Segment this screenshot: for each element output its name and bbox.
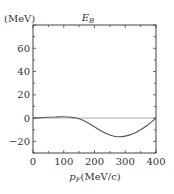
x-tick-label: 400 (146, 156, 165, 167)
y-tick-label: 20 (17, 89, 30, 100)
x-tick-label: 0 (30, 156, 36, 167)
x-tick-label: 300 (116, 156, 135, 167)
y-tick-label: 60 (17, 43, 30, 54)
y-tick-label: 0 (24, 113, 30, 124)
x-tick-label: 200 (85, 156, 104, 167)
x-axis-label: pF(MeV/c) (69, 171, 121, 184)
y-axis-label: (MeV) (4, 13, 35, 24)
y-tick-label: −20 (9, 136, 30, 147)
chart: 0100200300400−200204060(MeV)EBpF(MeV/c) (0, 0, 174, 194)
y-tick-label: 40 (17, 66, 30, 77)
x-tick-label: 100 (54, 156, 73, 167)
chart-title: EB (81, 12, 94, 25)
plot-frame (33, 25, 156, 153)
data-series-line (33, 117, 156, 137)
